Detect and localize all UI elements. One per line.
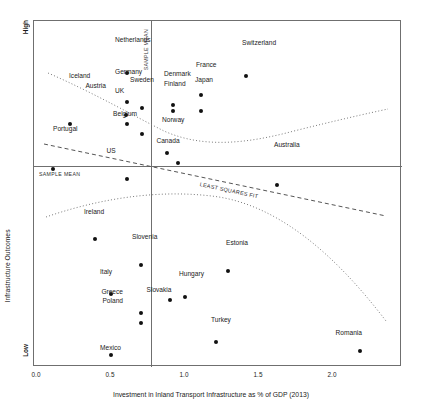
data-point (226, 269, 230, 273)
data-point-label: Poland (102, 298, 123, 305)
data-point-label: Slovakia (147, 287, 172, 294)
data-point-label: Slovenia (132, 234, 157, 241)
y-axis-high-label: High (22, 20, 29, 34)
data-point (125, 100, 129, 104)
data-point-label: Portugal (53, 126, 78, 133)
data-point-label: Ireland (84, 209, 104, 216)
data-point-label: Belgium (113, 111, 137, 118)
data-point (199, 109, 203, 113)
data-point-label: Sweden (130, 77, 154, 84)
data-point (140, 106, 144, 110)
data-point (139, 311, 143, 315)
plot-area: SAMPLE MEAN SAMPLE MEAN LEAST SQUARES FI… (33, 20, 401, 366)
data-point-label: US (106, 148, 115, 155)
data-point (109, 353, 113, 357)
data-point-label: Japan (195, 77, 213, 84)
data-point (275, 183, 279, 187)
data-point-label: Finland (164, 81, 186, 88)
data-point (168, 298, 172, 302)
data-point-label: Mexico (100, 345, 121, 352)
data-point-label: Switzerland (242, 40, 276, 47)
data-point-label: Turkey (211, 317, 231, 324)
x-tick-label: 1.0 (180, 371, 189, 378)
data-point (140, 132, 144, 136)
data-point (199, 93, 203, 97)
data-point (139, 263, 143, 267)
data-point (171, 109, 175, 113)
data-point (165, 151, 169, 155)
least-squares-fit-line (44, 144, 386, 216)
data-point-label: Australia (274, 142, 300, 149)
x-tick-label: 0.0 (32, 371, 41, 378)
x-tick-label: 1.5 (254, 371, 263, 378)
data-point-label: Romania (336, 330, 362, 337)
data-point (125, 122, 129, 126)
data-point-label: Denmark (164, 71, 191, 78)
data-point (51, 167, 55, 171)
data-point (358, 349, 362, 353)
data-point-label: Greece (101, 289, 123, 296)
data-point-label: UK (115, 88, 124, 95)
x-tick-label: 2.0 (328, 371, 337, 378)
data-point (171, 103, 175, 107)
data-point (244, 74, 248, 78)
y-axis-title: Infrastructure Outcomes (4, 229, 11, 302)
x-tick-label: 0.5 (106, 371, 115, 378)
data-point (93, 237, 97, 241)
scatter-chart: Infrastructure Outcomes High Low SAMPLE … (0, 0, 422, 417)
x-axis-title: Investment in Inland Transport Infrastru… (113, 391, 309, 398)
data-point-label: Netherlands (115, 37, 151, 44)
data-point (125, 177, 129, 181)
data-point-label: France (196, 62, 217, 69)
data-point (214, 340, 218, 344)
y-axis-low-label: Low (22, 344, 29, 357)
data-point-label: Norway (162, 117, 184, 124)
data-point-label: Iceland (69, 73, 90, 80)
data-point-label: Italy (100, 269, 112, 276)
data-point-label: Canada (156, 138, 179, 145)
data-point-label: Austria (85, 83, 106, 90)
data-point-label: Hungary (179, 271, 204, 278)
data-point (176, 161, 180, 165)
data-point (139, 321, 143, 325)
data-point (183, 295, 187, 299)
data-point-label: Germany (115, 69, 142, 76)
data-point-label: Estonia (226, 240, 248, 247)
